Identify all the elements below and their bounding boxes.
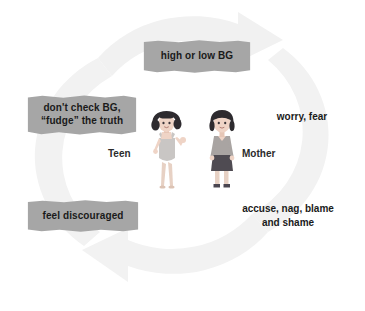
teen-caption: Teen: [108, 148, 131, 159]
node-dont-check-bg: don't check BG, “fudge” the truth: [27, 95, 137, 135]
mother-caption: Mother: [242, 148, 275, 159]
mother-figure-illustration: [199, 108, 245, 190]
diagram-canvas: high or low BG worry, fear accuse, nag, …: [0, 0, 365, 311]
teen-figure-illustration: [142, 108, 190, 192]
node-high-or-low-bg: high or low BG: [143, 40, 251, 73]
node-feel-discouraged: feel discouraged: [27, 200, 139, 232]
node-accuse-nag-blame: accuse, nag, blame and shame: [218, 202, 358, 229]
node-worry-fear: worry, fear: [253, 110, 351, 124]
